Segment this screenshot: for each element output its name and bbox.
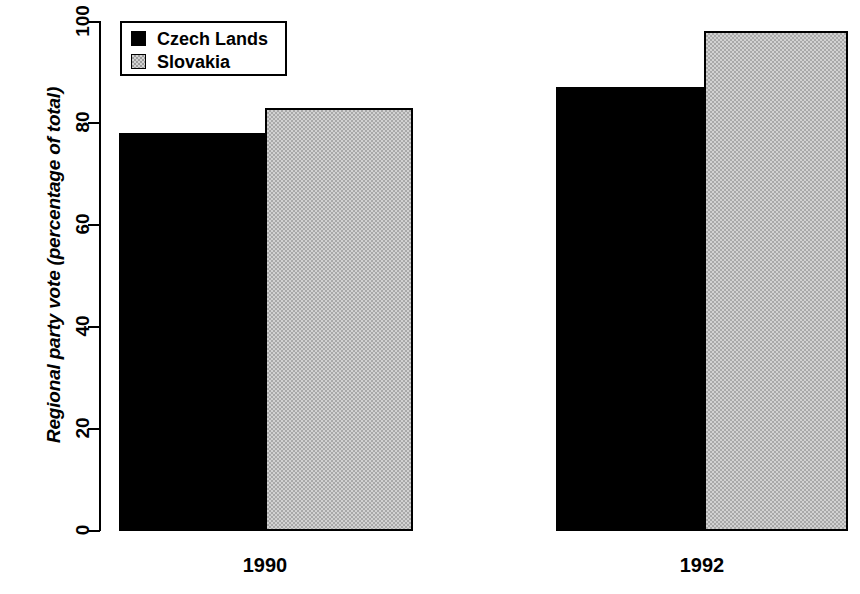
y-axis-title: Regional party vote (percentage of total…: [36, 0, 72, 530]
y-tick-label-20: 20: [73, 411, 93, 445]
legend: Czech Lands Slovakia: [120, 21, 287, 76]
bar-chart: Regional party vote (percentage of total…: [0, 0, 860, 594]
legend-label-slovakia: Slovakia: [157, 52, 230, 72]
bar-1992-czech-lands[interactable]: [556, 87, 705, 531]
y-tick-label-80: 80: [73, 105, 93, 139]
x-group-label-1992: 1992: [632, 552, 772, 578]
y-tick-label-wrap-40: 40: [48, 316, 100, 336]
legend-item-slovakia[interactable]: Slovakia: [131, 50, 285, 73]
legend-item-czech-lands[interactable]: Czech Lands: [131, 27, 285, 50]
y-tick-label-wrap-60: 60: [48, 214, 100, 234]
bar-1990-slovakia[interactable]: [265, 108, 413, 531]
bar-1992-slovakia[interactable]: [704, 31, 848, 531]
y-tick-label-100: 100: [73, 4, 93, 38]
y-tick-label-wrap-100: 100: [48, 11, 100, 31]
y-tick-label-wrap-80: 80: [48, 112, 100, 132]
black-square-icon: [131, 31, 146, 46]
y-tick-label-40: 40: [73, 309, 93, 343]
legend-label-czech-lands: Czech Lands: [157, 29, 268, 49]
y-tick-label-wrap-20: 20: [48, 418, 100, 438]
gray-square-icon: [131, 54, 146, 69]
y-tick-label-60: 60: [73, 207, 93, 241]
bar-1990-czech-lands[interactable]: [119, 133, 266, 531]
plot-area: [100, 10, 848, 531]
y-tick-label-0: 0: [73, 513, 93, 547]
x-group-label-1990: 1990: [195, 552, 335, 578]
y-tick-label-wrap-0: 0: [48, 520, 100, 540]
